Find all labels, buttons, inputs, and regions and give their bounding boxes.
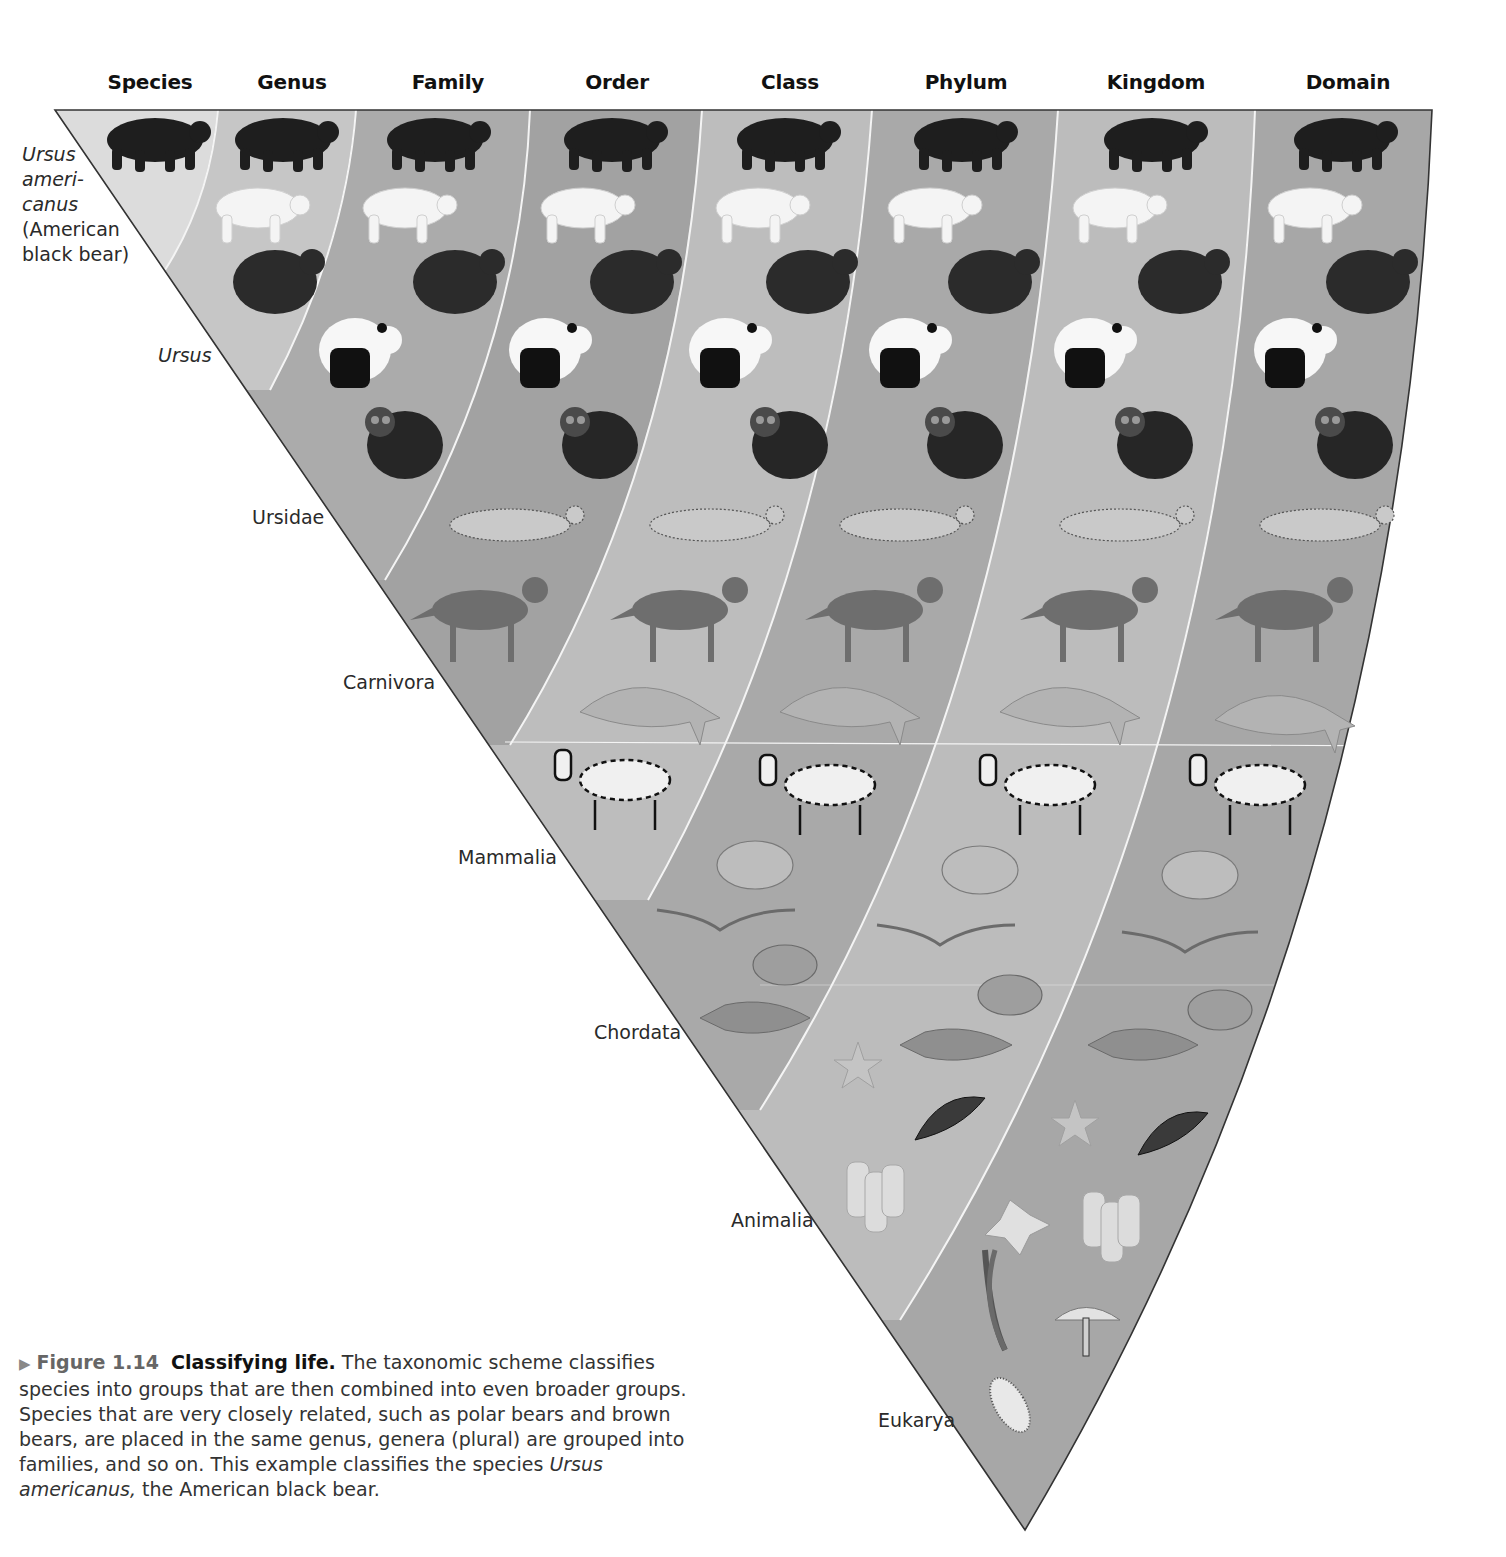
genus-label: Ursus	[158, 343, 212, 368]
species-label-line3: canus	[22, 192, 129, 217]
class-label: Mammalia	[458, 845, 557, 870]
figure-title: Classifying life.	[171, 1351, 336, 1373]
domain-label: Eukarya	[878, 1408, 955, 1433]
caption-text-end: the American black bear.	[136, 1478, 380, 1500]
species-label: Ursus ameri- canus (American black bear)	[22, 142, 129, 267]
phylum-label: Chordata	[594, 1020, 681, 1045]
figure-caption: ▶ Figure 1.14 Classifying life. The taxo…	[19, 1350, 709, 1502]
species-label-line4: (American	[22, 217, 129, 242]
family-label: Ursidae	[252, 505, 324, 530]
figure-number: Figure 1.14	[37, 1351, 159, 1373]
frog-icon	[1162, 851, 1238, 899]
species-label-line1: Ursus	[22, 142, 129, 167]
frog-icon	[717, 841, 793, 889]
turtle-icon	[1188, 990, 1252, 1030]
kingdom-label: Animalia	[731, 1208, 814, 1233]
caption-arrow-icon: ▶	[19, 1355, 31, 1373]
order-label: Carnivora	[343, 670, 435, 695]
frog-icon	[942, 846, 1018, 894]
species-label-line5: black bear)	[22, 242, 129, 267]
turtle-icon	[753, 945, 817, 985]
taxonomy-funnel	[0, 0, 1506, 1557]
species-label-line2: ameri-	[22, 167, 129, 192]
turtle-icon	[978, 975, 1042, 1015]
